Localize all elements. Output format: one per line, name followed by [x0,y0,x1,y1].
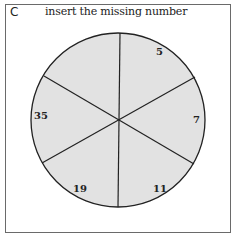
segment-top-right-value: 5 [156,46,163,57]
segment-right-value: 7 [193,114,200,125]
number-wheel: 5 7 11 19 35 [0,0,237,238]
segment-bottom-right-value: 11 [153,183,167,194]
segment-left-value: 35 [34,110,48,121]
segment-bottom-left-value: 19 [73,183,87,194]
